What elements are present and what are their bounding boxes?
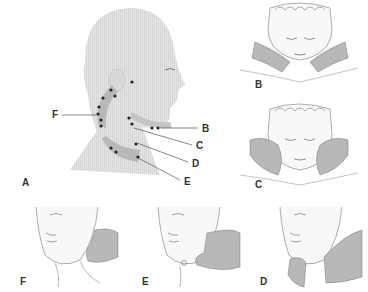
panel-label-d: D — [260, 277, 267, 287]
hand-left — [288, 258, 306, 287]
callout-label-b: B — [202, 124, 209, 134]
front-face-palpation-c — [230, 95, 368, 195]
side-face-palpation-e — [122, 195, 244, 292]
side-face-palpation-f — [0, 195, 122, 292]
panel-label-e: E — [142, 277, 149, 287]
hand-left — [250, 138, 282, 175]
callout-label-d: D — [192, 159, 199, 169]
panel-label-f: F — [20, 277, 26, 287]
panel-label-c: C — [255, 180, 262, 190]
callout-label-e: E — [184, 177, 191, 187]
panel-label-a: A — [22, 178, 29, 188]
panel-a: F B C D E A — [0, 0, 230, 195]
hand-right — [317, 138, 349, 175]
front-face-palpation-b — [230, 0, 368, 95]
panel-c: C — [230, 95, 368, 195]
panel-label-b: B — [255, 80, 262, 90]
callout-label-c: C — [196, 141, 203, 151]
head-shape — [84, 8, 185, 150]
panel-d: D — [244, 195, 368, 292]
panel-f: F — [0, 195, 122, 292]
panel-b: B — [230, 0, 368, 95]
callout-label-f: F — [52, 110, 58, 120]
panel-e: E — [122, 195, 244, 292]
